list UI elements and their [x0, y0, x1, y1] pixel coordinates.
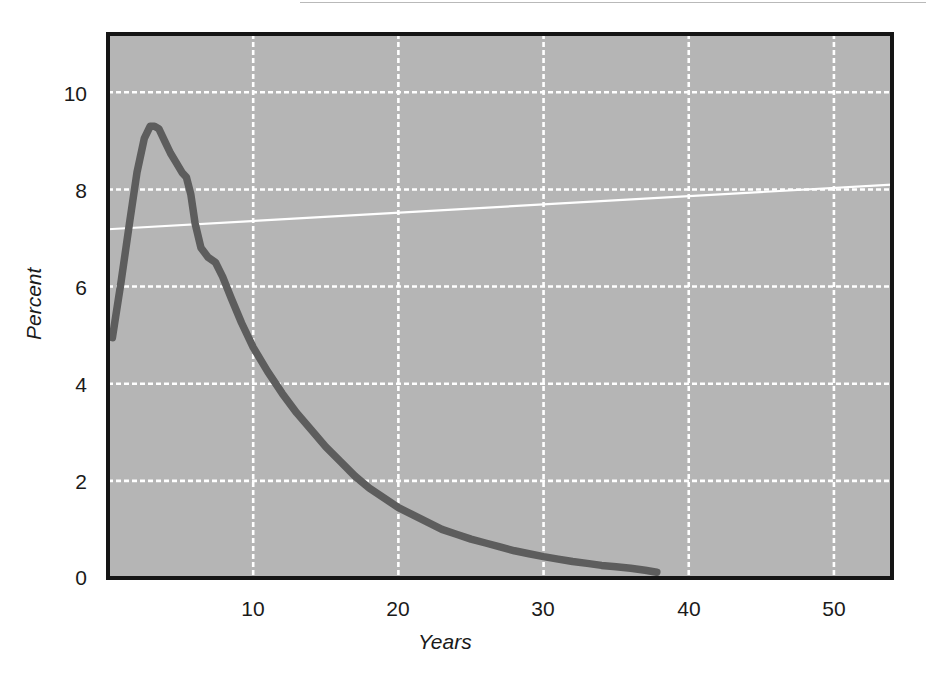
y-tick-label-4: 4: [47, 373, 87, 397]
x-tick-label-30: 30: [513, 597, 573, 621]
plot-canvas: [0, 0, 926, 675]
y-tick-label-8: 8: [47, 179, 87, 203]
y-tick-label-6: 6: [47, 276, 87, 300]
y-tick-label-0: 0: [47, 566, 87, 590]
x-tick-label-50: 50: [804, 597, 864, 621]
line-chart-figure: 10 8 6 4 2 0 10 20 30 40 50 Percent Year…: [0, 0, 926, 675]
x-tick-label-20: 20: [368, 597, 428, 621]
y-tick-label-2: 2: [47, 470, 87, 494]
x-tick-label-10: 10: [223, 597, 283, 621]
y-tick-label-10: 10: [47, 82, 87, 106]
x-axis-title: Years: [418, 630, 472, 654]
plot-background: [108, 34, 892, 578]
y-axis-title: Percent: [22, 268, 46, 340]
chart-page: 10 8 6 4 2 0 10 20 30 40 50 Percent Year…: [0, 0, 926, 675]
x-tick-label-40: 40: [659, 597, 719, 621]
